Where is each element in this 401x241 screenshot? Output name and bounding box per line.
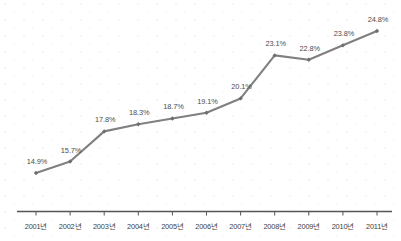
- data-point-marker: [170, 116, 174, 120]
- line-chart: 14.9%15.7%17.8%18.3%18.7%19.1%20.1%23.1%…: [0, 0, 401, 241]
- chart-canvas: [0, 0, 401, 241]
- series-line: [36, 31, 377, 173]
- data-point-marker: [136, 122, 140, 126]
